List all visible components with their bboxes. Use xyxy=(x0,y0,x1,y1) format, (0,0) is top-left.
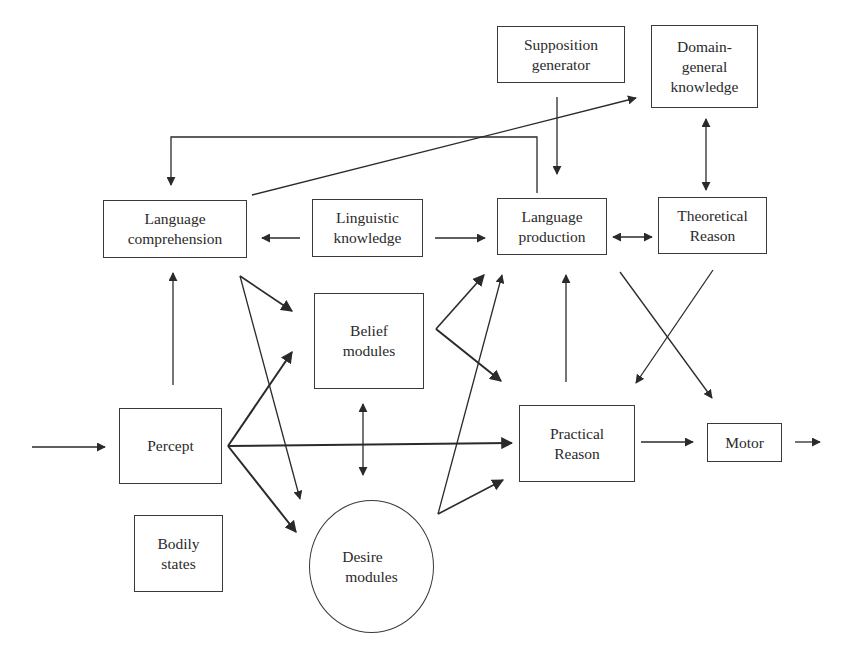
node-supposition-generator: Supposition generator xyxy=(497,26,625,83)
edge-belief-to-production xyxy=(436,275,484,329)
node-belief-modules: Belief modules xyxy=(314,293,424,389)
node-label-line: modules xyxy=(345,567,398,587)
edge-percept-to-desire xyxy=(228,446,296,532)
node-label-line: Domain- xyxy=(677,37,732,57)
node-label-line: Reason xyxy=(690,226,736,246)
node-label-line: comprehension xyxy=(128,229,223,249)
node-practical-reason: Practical Reason xyxy=(519,405,635,482)
node-label-line: Belief xyxy=(350,321,388,341)
node-desire-modules: Desire modules xyxy=(309,500,434,633)
node-label-line: Bodily xyxy=(157,534,199,554)
node-label-line: knowledge xyxy=(333,228,401,248)
node-label-line: states xyxy=(161,554,195,574)
cognitive-architecture-diagram: Supposition generator Domain- general kn… xyxy=(0,0,846,662)
edge-desire-to-production xyxy=(438,275,502,514)
node-label-line: Reason xyxy=(554,444,600,464)
node-label-line: Practical xyxy=(550,424,604,444)
edge-comprehension-to-domain-knowledge xyxy=(252,98,636,195)
node-label-line: modules xyxy=(343,341,396,361)
node-label-line: Desire xyxy=(342,547,382,567)
node-label-line: Motor xyxy=(725,433,764,453)
node-label-line: Supposition xyxy=(524,35,598,55)
node-linguistic-knowledge: Linguistic knowledge xyxy=(312,199,423,257)
node-label-line: Language xyxy=(521,207,582,227)
node-language-production: Language production xyxy=(497,198,607,255)
node-label-line: Theoretical xyxy=(677,206,748,226)
node-domain-general-knowledge: Domain- general knowledge xyxy=(651,25,758,108)
node-bodily-states: Bodily states xyxy=(134,515,223,592)
edge-desire-to-practical xyxy=(438,480,503,514)
node-language-comprehension: Language comprehension xyxy=(103,200,247,258)
edge-theoretical-to-practical xyxy=(636,270,713,383)
node-motor: Motor xyxy=(707,423,782,462)
node-percept: Percept xyxy=(119,408,222,484)
node-label-line: Percept xyxy=(147,436,193,456)
node-theoretical-reason: Theoretical Reason xyxy=(658,197,767,254)
node-label-line: Linguistic xyxy=(336,208,399,228)
node-label-line: Language xyxy=(144,209,205,229)
edge-belief-to-practical xyxy=(436,329,501,381)
node-label-line: knowledge xyxy=(670,77,738,97)
edge-percept-to-practical-reason xyxy=(228,443,512,446)
node-label-line: production xyxy=(518,227,585,247)
node-label-line: generator xyxy=(532,55,591,75)
node-label-line: general xyxy=(682,57,728,77)
edge-production-to-comprehension xyxy=(171,137,537,193)
